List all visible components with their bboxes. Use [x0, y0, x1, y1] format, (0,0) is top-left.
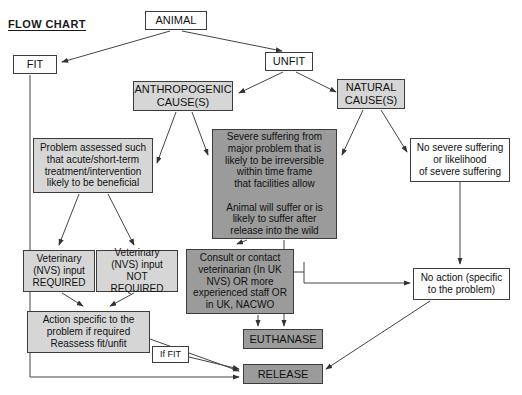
edge-consult-to-no-action	[294, 272, 410, 283]
node-fit[interactable]: FIT	[13, 55, 57, 74]
node-problem-assessed-label: Problem assessed such that acute/short-t…	[34, 142, 152, 189]
edge-unfit-to-anthropogenic	[239, 72, 283, 93]
node-no-action[interactable]: No action (specific to the problem)	[413, 268, 510, 300]
node-unfit[interactable]: UNFIT	[265, 52, 313, 71]
node-release-label: RELEASE	[244, 368, 322, 381]
edge-problem-to-vet-not-required	[108, 194, 134, 245]
node-problem-assessed[interactable]: Problem assessed such that acute/short-t…	[33, 138, 153, 193]
node-consult-vet[interactable]: Consult or contact veterinarian (In UK N…	[186, 249, 294, 314]
node-no-action-label: No action (specific to the problem)	[414, 272, 509, 296]
node-euthanase-label: EUTHANASE	[244, 333, 322, 346]
node-action-specific[interactable]: Action specific to the problem if requir…	[27, 311, 150, 353]
edge-natural-to-severe	[342, 110, 363, 155]
edge-anthropogenic-to-severe	[192, 112, 208, 155]
edge-vet-not-required-to-action	[110, 293, 134, 306]
node-no-severe-suffering[interactable]: No severe suffering or likelihood of sev…	[410, 138, 510, 182]
node-animal-label: ANIMAL	[146, 14, 206, 27]
node-natural-cause[interactable]: NATURAL CAUSE(S)	[337, 79, 405, 109]
edge-problem-to-vet-required	[59, 194, 79, 245]
node-euthanase[interactable]: EUTHANASE	[243, 329, 323, 349]
node-anthropogenic-cause[interactable]: ANTHROPOGENIC CAUSE(S)	[133, 81, 233, 111]
node-animal[interactable]: ANIMAL	[145, 11, 207, 30]
flow-chart-canvas: FLOW CHART ANIMAL FIT UNFIT ANTHROPOGENI…	[0, 0, 522, 395]
node-severe-suffering-label: Severe suffering from major problem that…	[213, 131, 336, 237]
edge-anthropogenic-to-problem	[157, 112, 176, 163]
page-title: FLOW CHART	[8, 18, 86, 30]
node-vet-not-required[interactable]: Veterinary (NVS) input NOT REQUIRED	[96, 250, 178, 292]
edge-natural-to-no-severe	[381, 110, 407, 152]
node-vet-required[interactable]: Veterinary (NVS) input REQUIRED	[23, 250, 95, 292]
edge-animal-to-unfit	[182, 31, 282, 51]
edge-no-action-to-release	[326, 301, 430, 369]
node-vet-required-label: Veterinary (NVS) input REQUIRED	[24, 253, 94, 288]
node-anthropogenic-cause-label: ANTHROPOGENIC CAUSE(S)	[132, 83, 233, 109]
node-action-specific-label: Action specific to the problem if requir…	[28, 314, 149, 349]
node-vet-not-required-label: Veterinary (NVS) input NOT REQUIRED	[97, 247, 177, 294]
node-natural-cause-label: NATURAL CAUSE(S)	[338, 81, 404, 107]
node-severe-suffering[interactable]: Severe suffering from major problem that…	[212, 129, 337, 239]
edge-animal-to-fit	[62, 31, 170, 62]
node-if-fit-label: If FIT	[153, 349, 188, 360]
edge-severe-to-consult	[237, 240, 247, 244]
edge-if-fit-to-release	[189, 357, 239, 369]
edge-unfit-to-natural	[296, 72, 336, 92]
node-no-severe-suffering-label: No severe suffering or likelihood of sev…	[411, 142, 509, 177]
node-unfit-label: UNFIT	[266, 55, 312, 68]
node-release[interactable]: RELEASE	[243, 364, 323, 384]
edge-vet-required-to-action	[62, 293, 83, 306]
node-if-fit[interactable]: If FIT	[152, 346, 189, 363]
node-consult-vet-label: Consult or contact veterinarian (In UK N…	[187, 252, 293, 311]
node-fit-label: FIT	[14, 58, 56, 71]
